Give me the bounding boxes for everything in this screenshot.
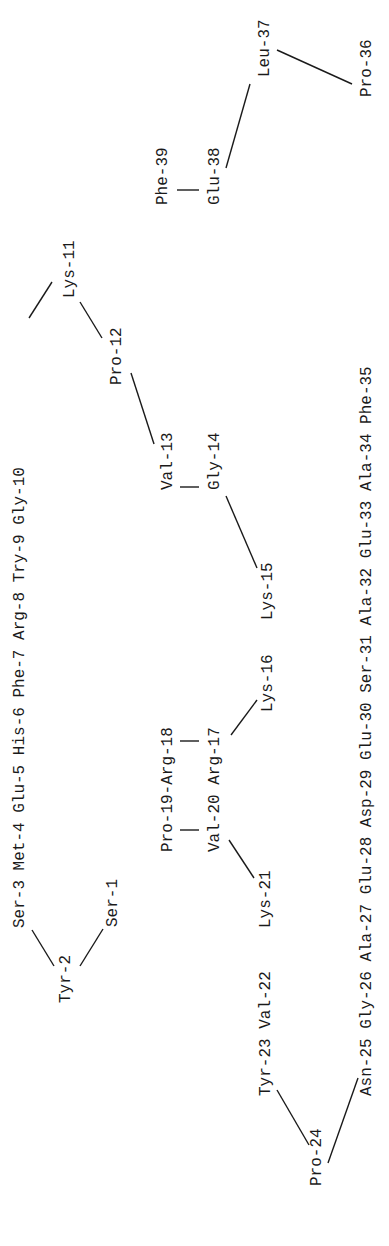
- peptide-sequence-diagram: Ser-3 Met-4 Glu-5 His-6 Phe-7 Arg-8 Try-…: [0, 0, 389, 1246]
- residue-lys-21: Lys-21: [258, 870, 274, 928]
- residue-pro-12: Pro-12: [109, 327, 125, 385]
- residue-row-asn25-phe35: Asn-25 Gly-26 Ala-27 Glu-28 Asp-29 Glu-3…: [359, 366, 375, 1096]
- residue-glu-38: Glu-38: [207, 147, 223, 205]
- residue-tyr-2: Tyr-2: [58, 955, 74, 1003]
- residue-lys-16: Lys-16: [260, 654, 276, 712]
- residue-phe-39: Phe-39: [155, 147, 171, 205]
- residue-row-tyr23-val22: Tyr-23 Val-22: [258, 971, 274, 1096]
- residue-lys-11: Lys-11: [62, 240, 78, 298]
- residue-ser-1: Ser-1: [105, 879, 121, 927]
- residue-pro19-arg18: Pro-19-Arg-18: [160, 727, 176, 852]
- residue-val20-arg17: Val-20 Arg-17: [207, 727, 223, 852]
- residue-lys-15: Lys-15: [260, 562, 276, 620]
- residue-leu-37: Leu-37: [257, 19, 273, 77]
- residue-gly-14: Gly-14: [207, 432, 223, 490]
- residue-val-13: Val-13: [160, 432, 176, 490]
- residue-pro-36: Pro-36: [359, 39, 375, 97]
- residue-pro-24: Pro-24: [309, 1128, 325, 1186]
- residue-row-ser3-gly10: Ser-3 Met-4 Glu-5 His-6 Phe-7 Arg-8 Try-…: [12, 467, 28, 928]
- bond-lines: [0, 0, 389, 1246]
